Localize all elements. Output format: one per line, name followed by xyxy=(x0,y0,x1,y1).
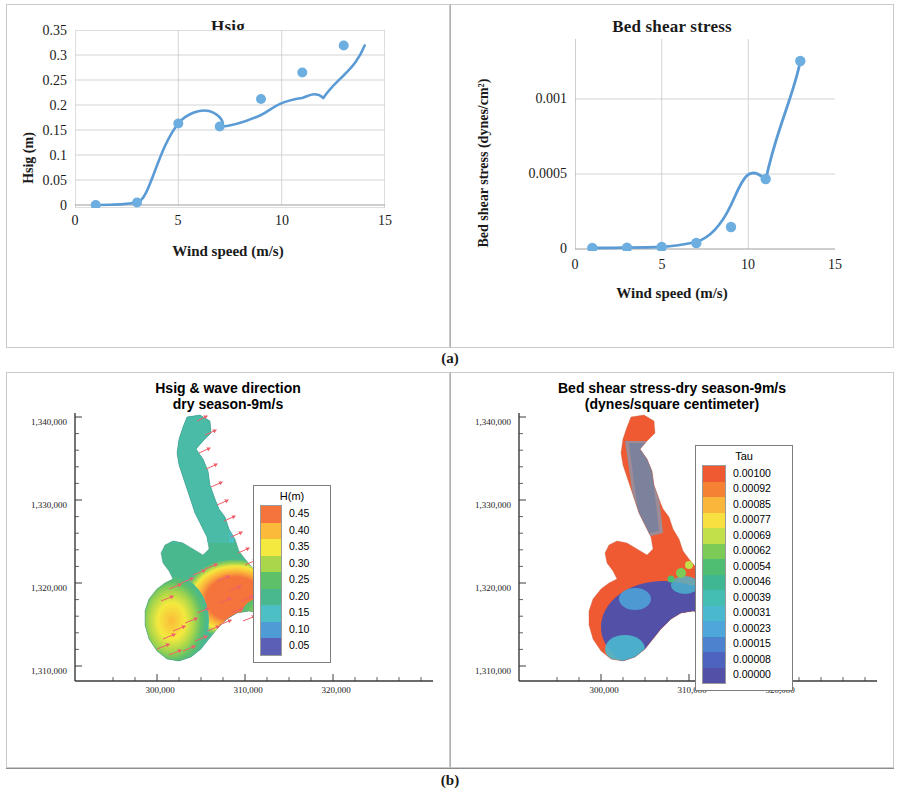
legend-label: 0.15 xyxy=(282,604,309,621)
tau-map-ytick-1330000: 1,330,000 xyxy=(453,500,511,510)
legend-swatch xyxy=(261,605,281,622)
bed-shear-plot-area xyxy=(575,39,835,251)
legend-label: 0.35 xyxy=(282,538,309,555)
hsig-map-xtick-320000: 320,000 xyxy=(306,685,366,695)
hsig-map-xtick-300000: 300,000 xyxy=(130,685,190,695)
legend-swatch xyxy=(703,497,725,513)
hsig-map-ytick-1340000: 1,340,000 xyxy=(9,417,67,427)
legend-swatch xyxy=(703,482,725,498)
hsig-map-xtick-310000: 310,000 xyxy=(218,685,278,695)
legend-label: 0.00069 xyxy=(726,527,771,543)
bed-shear-chart-panel: Bed shear stress Bed shear stress (dynes… xyxy=(450,4,894,348)
bed-shear-ytick-0001: 0.001 xyxy=(495,91,567,107)
bed-shear-ytick-0: 0 xyxy=(495,241,567,257)
bed-shear-y-axis-title: Bed shear stress (dynes/cm²) xyxy=(476,38,492,288)
hsig-ytick-025: 0.25 xyxy=(15,73,67,89)
hsig-ytick-015: 0.15 xyxy=(15,123,67,139)
legend-swatch xyxy=(261,506,281,523)
legend-label: 0.00085 xyxy=(726,496,771,512)
legend-swatch xyxy=(703,544,725,560)
hsig-x-axis-title: Wind speed (m/s) xyxy=(7,243,449,260)
legend-label: 0.00092 xyxy=(726,481,771,497)
legend-label: 0.20 xyxy=(282,588,309,605)
hsig-ytick-005: 0.05 xyxy=(15,173,67,189)
hsig-xtick-0: 0 xyxy=(55,213,95,229)
hsig-map-panel: Hsig & wave direction dry season-9m/s 1,… xyxy=(6,372,450,768)
panel-a: Hsig Hsig (m) 0 0.05 0.1 0.15 0.2 0.25 0… xyxy=(6,4,894,348)
legend-label: 0.00008 xyxy=(726,651,771,667)
hsig-legend: H(m) 0.450.400.350.300.250.200.150.100.0… xyxy=(253,485,331,663)
legend-swatch xyxy=(703,637,725,653)
legend-label: 0.40 xyxy=(282,522,309,539)
legend-label: 0.00000 xyxy=(726,667,771,683)
tau-legend-colorbar xyxy=(702,465,726,684)
hsig-map-ytick-1310000: 1,310,000 xyxy=(9,666,67,676)
panel-b-bottom-rule xyxy=(6,768,894,769)
legend-label: 0.00023 xyxy=(726,620,771,636)
bed-shear-x-axis-title: Wind speed (m/s) xyxy=(451,285,893,302)
legend-label: 0.00077 xyxy=(726,512,771,528)
tau-legend: Tau 0.001000.000920.000850.000770.000690… xyxy=(695,445,793,691)
tau-map-title-line1: Bed shear stress-dry season-9m/s xyxy=(558,380,786,396)
legend-swatch xyxy=(703,606,725,622)
legend-swatch xyxy=(703,590,725,606)
tau-map-ytick-1340000: 1,340,000 xyxy=(453,417,511,427)
hsig-legend-labels: 0.450.400.350.300.250.200.150.100.05 xyxy=(282,505,309,656)
legend-swatch xyxy=(261,638,281,655)
panel-b: Hsig & wave direction dry season-9m/s 1,… xyxy=(6,372,894,768)
legend-label: 0.00031 xyxy=(726,605,771,621)
legend-label: 0.00015 xyxy=(726,636,771,652)
hsig-ytick-02: 0.2 xyxy=(15,98,67,114)
hsig-chart-panel: Hsig Hsig (m) 0 0.05 0.1 0.15 0.2 0.25 0… xyxy=(6,4,450,348)
figure-root: Hsig Hsig (m) 0 0.05 0.1 0.15 0.2 0.25 0… xyxy=(0,0,900,796)
tau-map-title: Bed shear stress-dry season-9m/s (dynes/… xyxy=(451,381,893,412)
bed-shear-ytick-00005: 0.0005 xyxy=(495,166,567,182)
tau-map-title-line2: (dynes/square centimeter) xyxy=(451,397,893,413)
legend-label: 0.45 xyxy=(282,505,309,522)
hsig-xtick-5: 5 xyxy=(158,213,198,229)
legend-label: 0.10 xyxy=(282,621,309,638)
hsig-map-ytick-1330000: 1,330,000 xyxy=(9,500,67,510)
hsig-ytick-03: 0.3 xyxy=(15,48,67,64)
legend-swatch xyxy=(703,528,725,544)
legend-label: 0.05 xyxy=(282,637,309,654)
tau-map-xtick-300000: 300,000 xyxy=(574,685,634,695)
hsig-ytick-01: 0.1 xyxy=(15,148,67,164)
tau-legend-title: Tau xyxy=(696,446,792,465)
legend-swatch xyxy=(703,621,725,637)
legend-swatch xyxy=(261,572,281,589)
bed-shear-xtick-5: 5 xyxy=(642,257,682,273)
legend-swatch xyxy=(703,668,725,684)
legend-swatch xyxy=(703,466,725,482)
hsig-legend-title: H(m) xyxy=(254,486,330,505)
legend-label: 0.30 xyxy=(282,555,309,572)
hsig-map-title: Hsig & wave direction dry season-9m/s xyxy=(7,381,449,412)
legend-swatch xyxy=(261,622,281,639)
hsig-ytick-035: 0.35 xyxy=(15,23,67,39)
legend-swatch xyxy=(703,513,725,529)
legend-swatch xyxy=(703,575,725,591)
legend-swatch xyxy=(261,523,281,540)
legend-label: 0.25 xyxy=(282,571,309,588)
bed-shear-xtick-0: 0 xyxy=(555,257,595,273)
subfigure-caption-a: (a) xyxy=(0,350,900,367)
legend-label: 0.00100 xyxy=(726,465,771,481)
hsig-map-title-line1: Hsig & wave direction xyxy=(155,380,300,396)
tau-map-ytick-1320000: 1,320,000 xyxy=(453,583,511,593)
hsig-xtick-15: 15 xyxy=(365,213,405,229)
bed-shear-xtick-15: 15 xyxy=(815,257,855,273)
legend-swatch xyxy=(261,589,281,606)
subfigure-caption-b: (b) xyxy=(0,772,900,789)
legend-label: 0.00039 xyxy=(726,589,771,605)
legend-swatch xyxy=(703,652,725,668)
hsig-map-title-line2: dry season-9m/s xyxy=(7,397,449,413)
hsig-legend-colorbar xyxy=(260,505,282,656)
hsig-ytick-0: 0 xyxy=(15,198,67,214)
hsig-map-ytick-1320000: 1,320,000 xyxy=(9,583,67,593)
legend-swatch xyxy=(703,559,725,575)
bed-shear-xtick-10: 10 xyxy=(728,257,768,273)
tau-map-ytick-1310000: 1,310,000 xyxy=(453,666,511,676)
bed-shear-chart-title: Bed shear stress xyxy=(451,17,893,37)
hsig-plot-area xyxy=(75,30,385,208)
legend-swatch xyxy=(261,556,281,573)
